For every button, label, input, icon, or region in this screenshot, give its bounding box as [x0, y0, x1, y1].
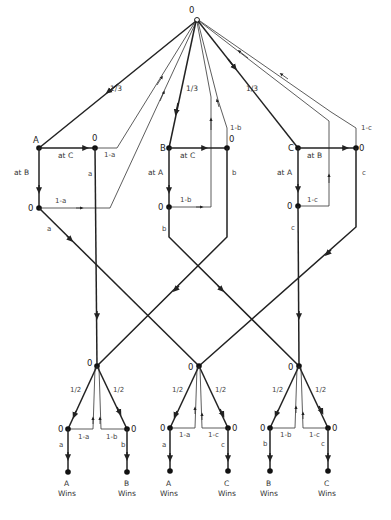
c-right-node-label: 0	[359, 143, 364, 153]
duel1-right-miss: 1-b	[106, 433, 118, 441]
duel1-left-node-label: 0	[58, 424, 63, 434]
duel3-right-prob: 1/2	[315, 386, 326, 394]
c-hit-right-label: c	[362, 169, 366, 177]
b-miss-down-label: 1-b	[180, 196, 192, 204]
duel3-right-winner: C	[324, 479, 329, 488]
a-hit-right-label: a	[88, 170, 92, 178]
duel2-right-prob: 1/2	[215, 386, 226, 394]
duel2-left-hit: a	[162, 441, 166, 449]
duel1-right-node-label: 0	[131, 424, 136, 434]
duel3-right-hit: c	[321, 440, 325, 448]
crossing-lines	[39, 148, 356, 366]
node-a-label: A	[33, 135, 39, 145]
duel-subtree-a-c: 0 1/2 1/2 0 0 1-a 1-c a c A Wins C Wins	[160, 362, 237, 498]
duel2-right-miss: 1-c	[208, 431, 219, 439]
duel2-right-node-label: 0	[232, 423, 237, 433]
a-miss-right-label: 1-a	[104, 151, 115, 159]
duel1-left-winner: A	[64, 479, 70, 488]
miss-c-right-label: 1-c	[361, 124, 372, 132]
prob-b-label: 1/3	[186, 84, 198, 93]
b-down-node-label: 0	[158, 202, 163, 212]
duel3-node-label: 0	[288, 362, 293, 372]
c-down-node-label: 0	[287, 201, 292, 211]
player-b-block: B at C 0 at A 0 1-b b b	[148, 134, 237, 233]
root-label: 0	[189, 5, 194, 15]
duel3-left-wins: Wins	[260, 489, 278, 498]
duel3-right-wins: Wins	[318, 489, 336, 498]
duel2-left-prob: 1/2	[172, 386, 183, 394]
root-node: 0	[189, 5, 200, 23]
duel-subtree-b-c: 0 1/2 1/2 0 0 1-b 1-c b c B Wins C Wins	[260, 362, 337, 498]
duel2-right-wins: Wins	[218, 489, 236, 498]
a-right-node-label: 0	[92, 133, 97, 143]
c-at-b-label: at B	[307, 151, 322, 160]
duel2-left-node-label: 0	[160, 423, 165, 433]
duel2-left-wins: Wins	[160, 489, 178, 498]
duel3-left-winner: B	[266, 479, 271, 488]
a-at-c-label: at C	[58, 151, 73, 160]
duel3-right-node-label: 0	[332, 423, 337, 433]
c-at-a-label: at A	[277, 168, 293, 177]
player-c-block: C at B 0 at A 0 1-c c c	[277, 143, 366, 232]
duel1-node-label: 0	[87, 358, 92, 368]
node-b-label: B	[160, 143, 166, 153]
prob-c-label: 1/3	[246, 84, 258, 93]
duel1-left-miss: 1-a	[78, 433, 89, 441]
c-miss-down-label: 1-c	[307, 196, 318, 204]
duel1-right-winner: B	[124, 479, 129, 488]
return-lines-a	[39, 22, 196, 208]
duel3-left-miss: 1-b	[280, 431, 292, 439]
duel1-right-prob: 1/2	[113, 386, 124, 394]
duel1-left-prob: 1/2	[70, 386, 81, 394]
prob-a-label: 1/3	[110, 84, 122, 93]
return-lines-c: 1-c	[199, 21, 372, 206]
b-right-node-label: 0	[229, 134, 234, 144]
duel2-right-winner: C	[224, 479, 229, 488]
a-at-b-label: at B	[14, 168, 29, 177]
c-hit-down-label: c	[291, 224, 295, 232]
node-c-label: C	[288, 143, 294, 153]
b-at-a-label: at A	[148, 168, 164, 177]
return-lines-b: 1-b	[169, 22, 242, 207]
duel1-right-wins: Wins	[118, 489, 136, 498]
probability-tree-diagram: 0 1/3 1/3 1-b 1/3 1-c	[0, 0, 391, 520]
miss-b-right-label: 1-b	[230, 124, 242, 132]
duel2-left-winner: A	[166, 479, 172, 488]
duel1-right-hit: b	[121, 441, 126, 449]
duel3-left-prob: 1/2	[272, 386, 283, 394]
duel3-right-miss: 1-c	[309, 431, 320, 439]
duel2-right-hit: c	[221, 441, 225, 449]
b-hit-down-label: b	[162, 225, 167, 233]
branch-root-to-c: 1/3	[198, 21, 298, 148]
b-hit-right-label: b	[232, 169, 237, 177]
duel3-left-node-label: 0	[260, 423, 265, 433]
duel2-left-miss: 1-a	[179, 431, 190, 439]
duel1-left-wins: Wins	[58, 489, 76, 498]
a-miss-down-label: 1-a	[55, 197, 66, 205]
duel2-node-label: 0	[188, 362, 193, 372]
duel3-left-hit: b	[263, 440, 268, 448]
b-at-c-label: at C	[180, 151, 195, 160]
duel-subtree-a-b: 0 1/2 1/2 0 0 1-a 1-b a b A Wins B Wins	[58, 358, 136, 498]
a-down-node-label: 0	[28, 203, 33, 213]
a-hit-down-label: a	[47, 225, 51, 233]
duel1-left-hit: a	[59, 441, 63, 449]
